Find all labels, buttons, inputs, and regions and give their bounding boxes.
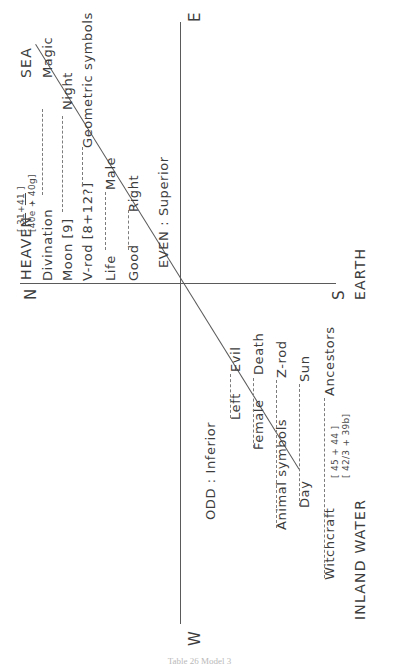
leader-line-lower-3 [276,380,277,528]
upper-pair-right-4: Male [103,157,118,190]
moiety-label-odd-inferior: ODD : Inferior [203,422,218,520]
axis-north-south [20,283,336,284]
leader-line-upper-3 [82,147,83,185]
bracket-lower-line-2: [ 42/3 + 39b] [341,414,352,478]
lower-pair-right-1: Evil [228,346,243,372]
leader-line-upper-2 [62,116,63,212]
upper-pair-left-1: Divination [40,209,55,281]
upper-pair-left-4: Life [103,255,118,281]
leader-line-lower-4 [299,384,300,506]
bracket-upper-denominator: 41 [16,193,26,205]
pole-label-sea: SEA [18,47,34,78]
leader-line-upper-5 [128,210,129,250]
bracket-lower-line-2-value: 42/3 + 39b [341,417,351,471]
leader-line-lower-1 [230,374,231,418]
leader-line-lower-2 [253,378,254,448]
upper-pair-right-5: Right [126,175,141,212]
bracket-upper-line-2-value: 40e + 40g [27,178,37,228]
figure-caption: Table 26 Model 3 [0,656,399,666]
bracket-upper-line-1: [ 31+41 ] [16,174,27,232]
bracket-lower-line-1-value: 45 + 44 [330,433,340,471]
leader-line-upper-1 [42,109,43,195]
lower-pair-right-3: Z-rod [274,340,289,378]
axis-east-west [180,22,181,624]
bracket-annotation-upper: [ 31+41 ] [40e + 40g] [16,174,39,232]
pole-label-inland-water: INLAND WATER [352,499,368,620]
bracket-annotation-lower: [ 45 + 44 ] [ 42/3 + 39b] [330,414,353,478]
bracket-upper-plus: + [16,205,26,213]
bracket-lower-line-1: [ 45 + 44 ] [330,414,341,478]
bracket-upper-line-2: [40e + 40g] [27,174,38,232]
diagram-canvas: E W N S HEAVEN . SEA EARTH INLAND WATER … [0,0,399,666]
leader-line-lower-5 [324,398,325,578]
bracket-upper-numerator: 31 [16,213,26,225]
lower-pair-right-2: Death [251,333,266,375]
compass-label-west: W [186,630,204,646]
upper-pair-right-2: Night [60,72,75,110]
upper-pair-right-3: Geometric symbols [80,12,95,148]
leader-line-upper-4 [105,192,106,250]
compass-label-north: N [22,287,40,300]
upper-pair-right-1: Magic [40,37,55,78]
compass-label-east: E [186,11,204,22]
upper-pair-left-3: V-rod [8+12?] [80,182,95,281]
lower-pair-right-4: Sun [297,355,312,382]
pole-label-earth: EARTH [352,248,368,300]
moiety-label-even-superior: EVEN : Superior [156,156,171,268]
lower-pair-right-5: Ancestors [322,326,337,396]
upper-pair-left-2: Moon [9] [60,218,75,281]
compass-label-south: S [330,289,348,300]
